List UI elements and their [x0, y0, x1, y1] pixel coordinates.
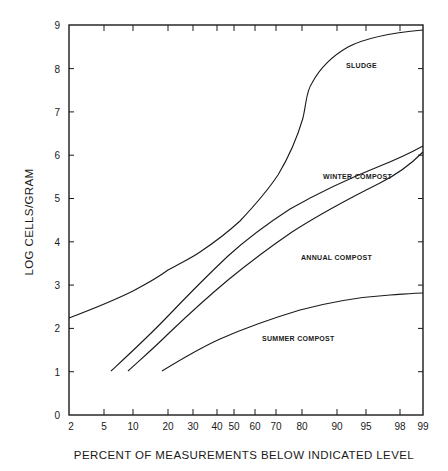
x-tick-label: 2 — [68, 421, 74, 432]
x-axis: 2 5 10 20 30 40 50 60 70 80 90 95 98 99 — [68, 25, 429, 432]
x-tick-label: 10 — [127, 421, 139, 432]
y-tick-label: 9 — [54, 20, 60, 31]
y-tick-label: 4 — [54, 237, 60, 248]
series-summer-compost — [162, 293, 423, 371]
x-axis-title: PERCENT OF MEASUREMENTS BELOW INDICATED … — [74, 449, 414, 461]
y-tick-label: 5 — [54, 193, 60, 204]
x-tick-label: 50 — [228, 421, 240, 432]
y-axis: 0 1 2 3 4 5 6 7 8 9 — [54, 20, 423, 421]
y-tick-label: 1 — [54, 367, 60, 378]
x-tick-label: 99 — [417, 421, 429, 432]
y-tick-label: 8 — [54, 64, 60, 75]
x-tick-label: 30 — [187, 421, 199, 432]
y-tick-label: 6 — [54, 150, 60, 161]
x-tick-label: 70 — [270, 421, 282, 432]
label-annual-compost: ANNUAL COMPOST — [301, 254, 372, 261]
x-tick-label: 20 — [162, 421, 174, 432]
x-tick-label: 90 — [331, 421, 343, 432]
x-tick-label: 60 — [249, 421, 261, 432]
x-tick-label: 95 — [360, 421, 372, 432]
x-tick-label: 80 — [296, 421, 308, 432]
y-axis-title: LOG CELLS/GRAM — [23, 168, 35, 275]
x-tick-label: 40 — [211, 421, 223, 432]
y-tick-label: 3 — [54, 280, 60, 291]
label-summer-compost: SUMMER COMPOST — [262, 335, 335, 342]
y-tick-label: 0 — [54, 410, 60, 421]
y-tick-label: 7 — [54, 107, 60, 118]
x-tick-label: 98 — [394, 421, 406, 432]
x-tick-label: 5 — [101, 421, 107, 432]
y-tick-label: 2 — [54, 323, 60, 334]
label-sludge: SLUDGE — [346, 62, 377, 69]
chart: 0 1 2 3 4 5 6 7 8 9 2 5 — [0, 0, 448, 471]
label-winter-compost: WINTER COMPOST — [323, 173, 393, 180]
plot-frame — [69, 25, 423, 415]
